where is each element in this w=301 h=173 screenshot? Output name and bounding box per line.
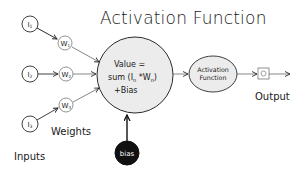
- edge-w1-main: [72, 47, 99, 62]
- svg-text:Function: Function: [200, 74, 227, 81]
- weight-node-w3: W3: [59, 98, 73, 112]
- inputs-caption: Inputs: [14, 151, 45, 162]
- weight-node-w2: W2: [59, 67, 73, 81]
- output-caption: Output: [255, 91, 290, 102]
- bias-node: bias: [115, 141, 139, 165]
- edge-i3-w3: [37, 108, 58, 120]
- output-node: [258, 68, 269, 79]
- activation-function-node: Activation Function: [189, 56, 237, 92]
- weights-caption: Weights: [51, 126, 91, 137]
- input-node-i1: I1: [22, 16, 38, 32]
- weight-node-w1: W1: [58, 36, 72, 50]
- svg-text:bias: bias: [120, 150, 135, 158]
- edge-i1-w1: [37, 28, 57, 39]
- summation-line-3: +Bias: [114, 86, 137, 95]
- input-node-i2: I2: [22, 66, 38, 82]
- input-node-i3: I3: [22, 116, 38, 132]
- summation-node: Value = sum (In *Wn) +Bias: [97, 37, 173, 113]
- svg-text:Activation: Activation: [197, 66, 229, 73]
- activation-function-diagram: Activation Function I1 I2 I3 W1 W2 W3 Va…: [0, 0, 301, 173]
- diagram-title: Activation Function: [100, 8, 267, 28]
- edge-w3-main: [73, 88, 99, 102]
- summation-line-1: Value =: [114, 60, 145, 69]
- summation-line-2: sum (In *Wn): [108, 73, 157, 83]
